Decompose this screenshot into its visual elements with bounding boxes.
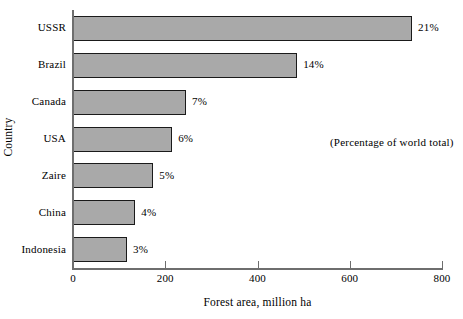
- category-label: Canada: [32, 95, 66, 107]
- bar-value-label: 4%: [141, 206, 156, 218]
- bar: [73, 237, 127, 262]
- category-label: Zaire: [42, 169, 66, 181]
- x-axis-tick: [258, 261, 259, 269]
- bar: [73, 53, 297, 78]
- category-label: USA: [43, 132, 66, 144]
- bar: [73, 163, 153, 188]
- x-axis-title: Forest area, million ha: [73, 296, 442, 308]
- category-label: USSR: [38, 21, 66, 33]
- bar-value-label: 6%: [178, 132, 193, 144]
- x-axis-tick-label: 800: [422, 272, 462, 284]
- bar: [73, 200, 135, 225]
- x-axis-tick: [73, 261, 74, 269]
- bar-value-label: 14%: [303, 58, 324, 70]
- y-axis-title: Country: [2, 107, 14, 167]
- chart-annotation: (Percentage of world total): [330, 136, 454, 148]
- x-axis-tick-label: 400: [238, 272, 278, 284]
- bar: [73, 127, 172, 152]
- x-axis-tick: [442, 261, 443, 269]
- bar-value-label: 5%: [159, 169, 174, 181]
- x-axis-tick-label: 0: [53, 272, 93, 284]
- x-axis-tick-label: 200: [145, 272, 185, 284]
- bar-chart: USSRBrazilCanadaUSAZaireChinaIndonesia 2…: [0, 0, 463, 319]
- category-label: Indonesia: [21, 243, 66, 255]
- bar: [73, 90, 186, 115]
- bar-value-label: 3%: [133, 243, 148, 255]
- category-label: Brazil: [38, 58, 66, 70]
- bar-value-label: 7%: [192, 95, 207, 107]
- bar-value-label: 21%: [418, 21, 439, 33]
- x-axis-tick: [350, 261, 351, 269]
- category-label: China: [39, 206, 66, 218]
- y-axis-line: [72, 10, 74, 268]
- bar: [73, 16, 412, 41]
- x-axis-tick: [165, 261, 166, 269]
- x-axis-tick-label: 600: [330, 272, 370, 284]
